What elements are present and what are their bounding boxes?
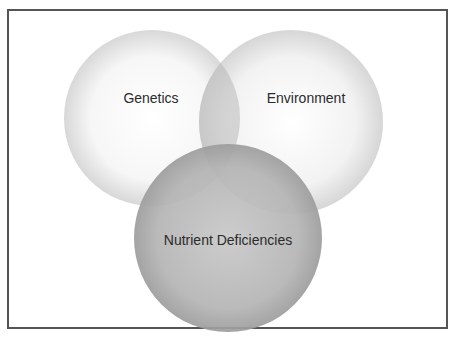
venn-diagram [0,0,456,339]
environment-label: Environment [267,90,346,106]
genetics-label: Genetics [123,90,178,106]
nutrient-deficiencies-label: Nutrient Deficiencies [164,232,292,248]
